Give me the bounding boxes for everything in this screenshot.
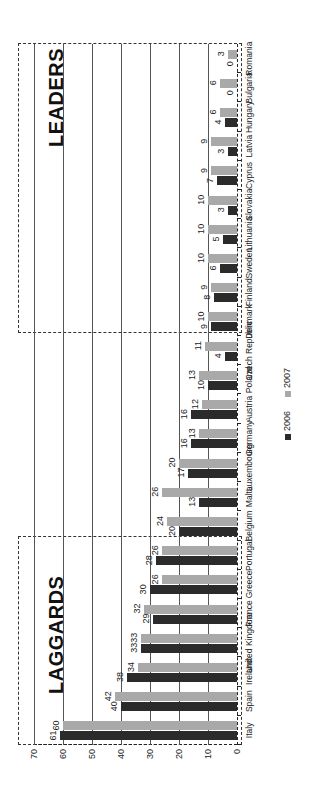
bar-2006-cyprus: [217, 176, 237, 185]
bar-2006-latvia: [228, 147, 237, 156]
category-label: France: [244, 600, 254, 626]
category-label: Spain: [244, 690, 254, 712]
x-tick: [237, 247, 241, 248]
gridline: [121, 44, 122, 745]
value-label: 12: [190, 394, 200, 414]
bar-2006-portugal: [156, 556, 237, 565]
x-tick: [237, 218, 241, 219]
bar-2007-belgium: [167, 517, 237, 526]
bar-2006-ireland: [127, 673, 237, 682]
value-label: 9: [199, 131, 209, 151]
x-tick: [237, 744, 241, 745]
value-label: 9: [199, 277, 209, 297]
value-label: 33: [129, 628, 139, 648]
value-label: 26: [150, 482, 160, 502]
bar-2006-lithuania: [223, 235, 238, 244]
bar-2007-spain: [115, 692, 237, 701]
value-label: 13: [187, 365, 197, 385]
bar-2006-france: [153, 615, 237, 624]
bar-2007-sweden: [208, 254, 237, 263]
value-label: 10: [196, 190, 206, 210]
category-label: Latvia: [244, 135, 254, 158]
category-label: Bulgaria: [244, 72, 254, 103]
bar-2007-germany: [199, 429, 237, 438]
bar-2007-poland: [199, 371, 237, 380]
bar-2006-sweden: [220, 264, 237, 273]
value-label: 6: [208, 73, 218, 93]
x-tick: [237, 540, 241, 541]
bar-2006-germany: [191, 439, 237, 448]
y-tick-label: 50: [87, 749, 97, 773]
legend-item-2007: 2007: [282, 368, 292, 397]
category-label: Romania: [244, 42, 254, 76]
bar-2007-portugal: [162, 546, 237, 555]
x-tick: [237, 686, 241, 687]
bar-2007-romania: [228, 50, 237, 59]
x-tick: [237, 394, 241, 395]
category-label: Portugal: [244, 539, 254, 571]
bar-2006-hungary: [225, 118, 237, 127]
x-tick: [237, 160, 241, 161]
x-tick: [237, 277, 241, 278]
x-tick: [237, 131, 241, 132]
value-label: 16: [179, 404, 189, 424]
bar-2006-united-kingdom: [141, 644, 237, 653]
x-tick: [237, 72, 241, 73]
bar-2006-denmark: [211, 322, 237, 331]
y-tick-label: 0: [232, 749, 242, 773]
x-tick: [237, 101, 241, 102]
x-tick: [237, 510, 241, 511]
x-tick: [237, 189, 241, 190]
value-label: 32: [132, 599, 142, 619]
legend-item-2006: 2006: [282, 411, 292, 440]
rotated-bar-chart: LAGGARDS LEADERS 0102030405060706160Ital…: [0, 0, 325, 785]
value-label: 38: [115, 667, 125, 687]
gridline: [63, 44, 64, 745]
x-tick: [237, 306, 241, 307]
y-tick-label: 70: [29, 749, 39, 773]
value-label: 13: [187, 423, 197, 443]
value-label: 26: [150, 569, 160, 589]
value-label: 11: [193, 336, 203, 356]
value-label: 42: [103, 686, 113, 706]
value-label: 10: [196, 306, 206, 326]
bar-2007-malta: [162, 488, 237, 497]
value-axis: [34, 744, 237, 745]
category-label: Denmark: [244, 304, 254, 338]
category-label: Finland: [244, 278, 254, 306]
category-label: Austria: [244, 396, 254, 422]
bar-2006-greece: [150, 585, 237, 594]
bar-2007-luxembourg: [179, 459, 237, 468]
bar-2007-latvia: [211, 137, 237, 146]
bar-2006-finland: [214, 293, 237, 302]
bar-2007-ireland: [138, 663, 237, 672]
x-tick: [237, 569, 241, 570]
y-tick-label: 10: [203, 749, 213, 773]
bar-2006-slovakia: [228, 206, 237, 215]
plot-area: 0102030405060706160Italy4042Spain3834Ire…: [34, 44, 237, 745]
category-label: Belgium: [244, 511, 254, 542]
bar-2007-czech-republic: [205, 342, 237, 351]
value-label: 6: [208, 102, 218, 122]
y-tick-label: 60: [58, 749, 68, 773]
gridline: [92, 44, 93, 745]
value-label: 10: [196, 248, 206, 268]
value-label: 34: [126, 657, 136, 677]
legend-swatch-2006: [285, 434, 291, 440]
x-tick: [237, 627, 241, 628]
bar-2006-luxembourg: [188, 469, 237, 478]
category-axis: [237, 44, 238, 745]
legend-swatch-2007: [285, 391, 291, 397]
bar-2007-austria: [202, 400, 237, 409]
bar-2006-spain: [121, 702, 237, 711]
value-label: 3: [216, 44, 226, 64]
category-label: Slovakia: [244, 189, 254, 221]
value-label: 30: [138, 579, 148, 599]
x-tick: [237, 481, 241, 482]
x-tick: [237, 598, 241, 599]
value-label: 26: [150, 540, 160, 560]
category-label: Cyprus: [244, 162, 254, 189]
bar-2007-slovakia: [208, 196, 237, 205]
category-label: Greece: [244, 570, 254, 598]
value-label: 10: [196, 219, 206, 239]
